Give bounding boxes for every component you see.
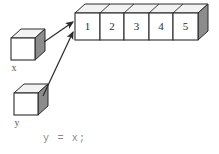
variable-y-label: y [15, 117, 20, 128]
cube-x-front-face [11, 38, 35, 60]
array-cell-3-label: 3 [134, 20, 140, 32]
arrow-x-to-array [44, 22, 73, 42]
array-cell-5-label: 5 [183, 20, 189, 32]
array-cell-1-label: 1 [85, 20, 91, 32]
cube-y-front-face [14, 93, 38, 115]
variable-x-label: x [12, 62, 17, 73]
arrow-y-to-array [43, 32, 73, 96]
variable-cube-y: y [14, 84, 48, 128]
array-top-face [75, 4, 208, 13]
array-cell-4-label: 4 [158, 20, 164, 32]
variable-cube-x: x [11, 29, 45, 73]
array-cell-2-label: 2 [109, 20, 115, 32]
caption-code: y = x; [43, 133, 86, 144]
reference-assignment-diagram: 1 2 3 4 5 x y y = x; [0, 0, 219, 154]
array-object: 1 2 3 4 5 [75, 4, 208, 40]
